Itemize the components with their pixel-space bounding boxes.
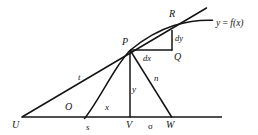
label-point-r: R bbox=[169, 9, 175, 19]
label-segment-x: x bbox=[105, 103, 109, 112]
label-point-q: Q bbox=[174, 52, 181, 62]
label-segment-y: y bbox=[132, 85, 136, 94]
label-point-p: P bbox=[122, 37, 128, 47]
function-label-equals: = bbox=[220, 18, 230, 28]
label-point-w: W bbox=[166, 120, 174, 130]
label-segment-t: t bbox=[78, 73, 81, 82]
label-segment-sigma: σ bbox=[148, 122, 153, 131]
label-function-equation: y = f(x) bbox=[216, 19, 244, 29]
geometry-figure: U O V W P Q R t s x y n σ dx dy y = f(x) bbox=[0, 0, 258, 135]
label-segment-n: n bbox=[154, 74, 159, 83]
label-differential-dx: dx bbox=[143, 54, 151, 63]
label-point-u: U bbox=[12, 120, 19, 130]
function-label-argument: (x) bbox=[233, 18, 244, 28]
label-point-o: O bbox=[65, 102, 72, 112]
label-segment-s: s bbox=[86, 123, 90, 132]
label-point-v: V bbox=[126, 120, 132, 130]
label-differential-dy: dy bbox=[175, 34, 183, 43]
